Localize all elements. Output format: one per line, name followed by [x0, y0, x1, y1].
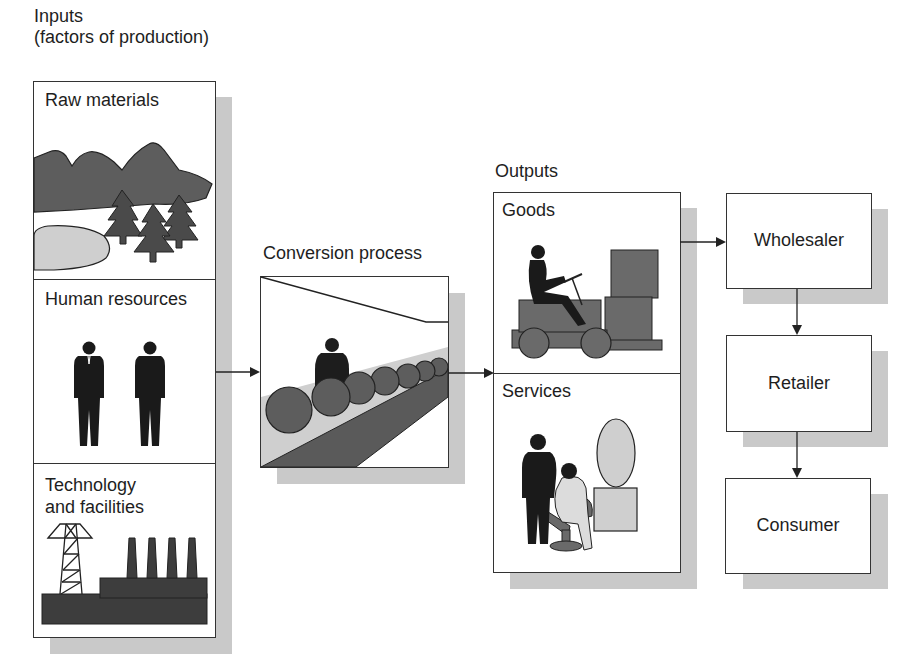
wholesaler-label: Wholesaler [727, 230, 871, 251]
inputs-title: Inputs [34, 6, 83, 27]
landscape-mountains-trees-icon [34, 140, 215, 280]
consumer-label: Consumer [726, 515, 870, 536]
forklift-icon [512, 240, 662, 365]
outputs-title: Outputs [495, 161, 558, 182]
arrow-inputs-to-conversion [216, 366, 262, 378]
arrow-wholesaler-to-retailer [791, 289, 803, 337]
inputs-divider-2 [33, 463, 216, 464]
raw-materials-label: Raw materials [45, 90, 159, 111]
retailer-box: Retailer [726, 335, 872, 432]
goods-label: Goods [502, 200, 555, 221]
human-resources-label: Human resources [45, 289, 187, 310]
arrow-retailer-to-consumer [791, 432, 803, 480]
hairdresser-icon [522, 418, 642, 553]
technology-label-line1: Technology [45, 475, 136, 496]
services-label: Services [502, 381, 571, 402]
workers-icon [70, 340, 170, 450]
consumer-box: Consumer [725, 478, 871, 574]
outputs-divider [493, 373, 681, 374]
wholesaler-box: Wholesaler [726, 193, 872, 289]
inputs-subtitle: (factors of production) [34, 27, 209, 48]
factory-power-tower-icon [42, 524, 207, 628]
arrow-conversion-to-outputs [448, 367, 496, 379]
retailer-label: Retailer [727, 373, 871, 394]
assembly-line-icon [261, 277, 448, 467]
arrow-outputs-to-wholesaler [680, 236, 728, 248]
conversion-title: Conversion process [263, 243, 422, 264]
technology-label-line2: and facilities [45, 497, 144, 518]
